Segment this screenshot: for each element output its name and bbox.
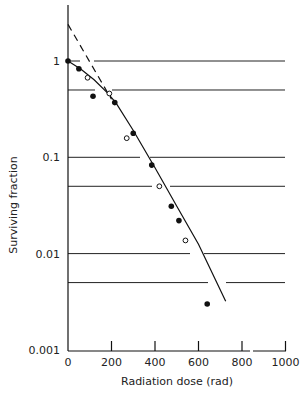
filled-data-point [169,203,175,209]
x-tick-label: 0 [65,356,72,369]
x-tick-label: 800 [232,356,253,369]
x-tick-label: 1000 [272,356,300,369]
filled-data-point [112,100,118,106]
y-tick-label: 0.1 [43,151,61,164]
x-tick-label: 400 [145,356,166,369]
x-axis-label: Radiation dose (rad) [121,375,233,388]
open-data-point [183,238,188,243]
y-tick-label: 0.001 [29,344,61,357]
survival-curve-chart: 02004006008001000 10.10.010.001 Radiatio… [0,0,307,395]
axes [68,5,286,351]
open-data-point [157,184,162,189]
curves [68,24,226,301]
open-data-point [124,136,129,141]
filled-data-point [65,58,71,64]
y-tick-label: 1 [53,55,60,68]
extrapolation-dashed-line [68,24,112,99]
filled-data-point [176,218,182,224]
x-ticks: 02004006008001000 [65,341,300,369]
y-tick-label: 0.01 [36,248,61,261]
y-ticks: 10.10.010.001 [29,55,61,357]
x-tick-label: 200 [101,356,122,369]
y-axis-label: Surviving fraction [7,156,20,253]
open-data-point [107,91,112,96]
data-points [65,58,210,307]
filled-data-point [76,66,82,72]
filled-data-point [204,301,210,307]
filled-data-point [130,130,136,136]
x-tick-label: 600 [188,356,209,369]
gridlines [68,61,285,283]
filled-data-point [149,162,155,168]
filled-data-point [90,93,96,99]
open-data-point [85,75,90,80]
